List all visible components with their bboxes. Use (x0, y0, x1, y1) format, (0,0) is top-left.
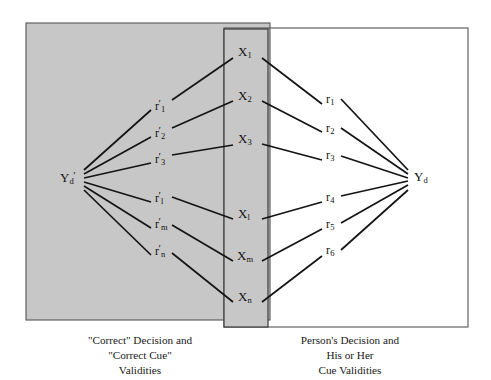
edge-label-left-3: r′3 (155, 151, 165, 166)
edge-label-right-5: r5 (326, 218, 334, 231)
edge-label-right-3-sub: 3 (330, 153, 334, 163)
edge-right-3a (262, 144, 322, 160)
edge-label-right-2-sub: 2 (330, 126, 334, 136)
edge-right-6a (262, 256, 322, 302)
edge-right-6b (341, 190, 408, 250)
edge-label-left-5-sub: m (161, 222, 168, 232)
node-cue-3-base: X (238, 131, 247, 146)
node-criterion-left: Yd′ (60, 170, 76, 185)
node-cue-3-sub: 3 (248, 137, 252, 147)
edge-label-right-2: r2 (326, 122, 334, 135)
node-cue-2-sub: 2 (248, 94, 252, 104)
node-cue-n-sub: n (248, 295, 252, 305)
node-cue-1-base: X (238, 44, 247, 59)
node-criterion-left-base: Y (60, 170, 69, 185)
edge-label-left-2-sub: 2 (161, 131, 165, 141)
edge-group-right (262, 58, 408, 302)
edge-label-left-1-sub: 1 (161, 104, 165, 114)
edge-label-left-2: r′2 (155, 125, 165, 140)
caption-right: Person's Decision and His or Her Cue Val… (252, 333, 448, 377)
node-cue-n: Xn (238, 290, 252, 304)
edge-label-left-6-sub: n (161, 249, 165, 259)
edge-label-right-1-sub: 1 (330, 97, 334, 107)
edge-label-right-6: r6 (326, 244, 334, 257)
edge-label-left-6: r′n (155, 243, 165, 258)
node-criterion-left-prime: ′ (73, 169, 75, 181)
lens-model-figure: Yd′ Yd X1 X2 X3 Xl Xm Xn r′1 r′2 r′3 r′l… (0, 0, 491, 380)
edge-right-1a (262, 58, 322, 104)
edge-label-right-3: r3 (326, 149, 334, 162)
node-cue-l-base: X (238, 206, 247, 221)
edge-right-5b (341, 185, 408, 223)
node-cue-m-sub: m (247, 254, 254, 264)
edge-label-right-4-sub: 4 (330, 195, 334, 205)
edge-label-right-1: r1 (326, 93, 334, 106)
node-cue-2-base: X (238, 88, 247, 103)
edge-label-left-1: r′1 (155, 98, 165, 113)
node-criterion-right-sub: d (424, 175, 428, 185)
edge-right-2a (262, 101, 322, 132)
node-cue-1: X1 (238, 45, 252, 59)
edge-right-4b (341, 181, 408, 196)
node-criterion-right: Yd (414, 170, 428, 184)
node-criterion-right-base: Y (414, 169, 423, 184)
node-cue-3: X3 (238, 132, 252, 146)
edge-label-right-4: r4 (326, 191, 334, 204)
edge-right-5a (262, 229, 322, 261)
edge-label-right-6-sub: 6 (330, 248, 334, 258)
edge-label-left-3-sub: 3 (161, 157, 165, 167)
node-cue-1-sub: 1 (248, 50, 252, 60)
edge-label-left-4-sub: l (161, 196, 163, 206)
node-cue-m: Xm (237, 249, 253, 263)
edge-label-left-5: r′m (155, 216, 168, 231)
node-cue-2: X2 (238, 89, 252, 103)
cue-column-panel (224, 29, 268, 327)
edge-label-right-5-sub: 5 (330, 222, 334, 232)
caption-left: "Correct" Decision and "Correct Cue" Val… (42, 333, 238, 377)
node-cue-l: Xl (238, 207, 250, 221)
node-cue-n-base: X (238, 289, 247, 304)
node-cue-l-sub: l (248, 212, 250, 222)
node-cue-m-base: X (237, 248, 246, 263)
edge-right-4a (262, 202, 322, 219)
edge-label-left-4: r′l (155, 190, 163, 205)
